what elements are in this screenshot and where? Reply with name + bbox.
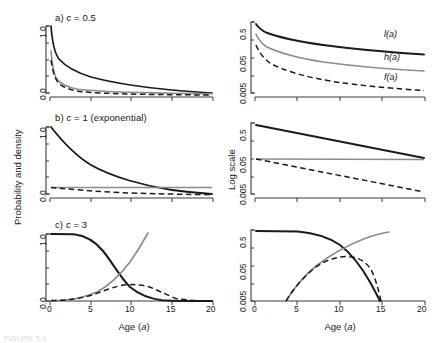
xtick-15-c-log: 15	[376, 304, 385, 314]
panel-c-title: c) c = 3	[55, 219, 87, 230]
ytick-0-005-b-log: 0.005	[238, 184, 248, 205]
panel-b-prefix: b)	[55, 112, 64, 123]
figure-caption: FIGURE 5.1	[4, 334, 47, 343]
panel-b-log-plot	[218, 107, 435, 214]
xtick-20-c: 20	[206, 304, 215, 314]
ytick-0-05-a-log: 0.05	[238, 55, 248, 72]
ytick-0-005-c-log: 0.005	[238, 291, 248, 312]
panel-c-prefix: c)	[55, 219, 63, 230]
axis-label-x-right: Age (a)	[280, 321, 400, 332]
panel-b-param: c	[66, 112, 71, 123]
xtick-5-c-log: 5	[294, 304, 299, 314]
ytick-0-0-a: 0.0	[38, 88, 48, 100]
panel-b-title: b) c = 1 (exponential)	[55, 112, 147, 123]
panel-c-value: = 3	[73, 219, 87, 230]
ytick-0-05-b-log: 0.05	[238, 156, 248, 173]
xtick-0-c-log: 0	[252, 304, 257, 314]
ytick-1-0-c: 1.0	[38, 234, 48, 246]
xtick-20-c-log: 20	[417, 304, 426, 314]
curve-label-density: f(a)	[384, 72, 398, 82]
panel-c-param: c	[66, 219, 71, 230]
ytick-0-05-c-log: 0.05	[238, 263, 248, 280]
ytick-0-5-b-log: 0.5	[238, 129, 248, 141]
panel-b-value: = 1 (exponential)	[74, 112, 147, 123]
panel-b-linear: b) c = 1 (exponential) 1.0 0.0	[0, 107, 218, 214]
ytick-1-0-b: 1.0	[38, 127, 48, 139]
ytick-0-5-a-log: 0.5	[238, 28, 248, 40]
xtick-5-c: 5	[88, 304, 93, 314]
panel-b-linear-plot	[0, 107, 218, 214]
xtick-10-c-log: 10	[334, 304, 343, 314]
xtick-0-c: 0	[47, 304, 52, 314]
curve-label-survivorship: l(a)	[384, 29, 397, 39]
panel-a-linear: a) c = 0.5 1.0 0.0	[0, 0, 218, 107]
panel-c-linear: c) c = 3 1.0 0.0 0 5 10 15 20 Age (a)	[0, 214, 218, 343]
panel-a-param: c	[66, 12, 71, 23]
panel-a-linear-plot	[0, 0, 218, 107]
figure-weibull-panels: Probability and density Log scale a) c =…	[0, 0, 435, 343]
xtick-10-c: 10	[125, 304, 134, 314]
ytick-0-5-c-log: 0.5	[238, 236, 248, 248]
ytick-0-005-a-log: 0.005	[238, 83, 248, 104]
xtick-15-c: 15	[166, 304, 175, 314]
ytick-0-0-b: 0.0	[38, 190, 48, 202]
panel-a-title: a) c = 0.5	[55, 12, 96, 23]
ytick-1-0-a: 1.0	[38, 26, 48, 38]
panel-b-log: 0.5 0.05 0.005	[218, 107, 435, 214]
panel-c-log: 0.5 0.05 0.005 0 5 10 15 20 Age (a)	[218, 214, 435, 343]
panel-a-log-plot	[218, 0, 435, 107]
panel-a-prefix: a)	[55, 12, 64, 23]
panel-a-value: = 0.5	[74, 12, 96, 23]
curve-label-hazard: h(a)	[384, 52, 400, 62]
panel-a-log: 0.5 0.05 0.005 l(a) h(a) f(a)	[218, 0, 435, 107]
axis-label-x-left: Age (a)	[74, 321, 194, 332]
